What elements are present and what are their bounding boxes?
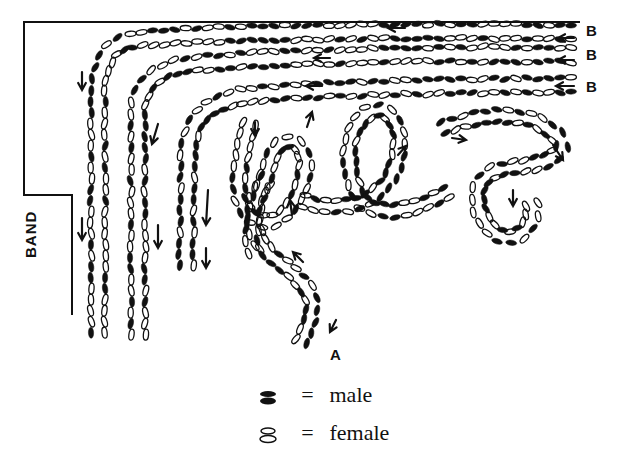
legend-female: =female (256, 420, 389, 447)
entry-label-a: A (330, 346, 341, 363)
entry-label-b2: B (586, 46, 597, 63)
female-symbol-icon (256, 423, 280, 447)
entry-label-b1: B (586, 22, 597, 39)
legend-male: =male (256, 382, 372, 409)
entry-label-b3: B (586, 78, 597, 95)
legend-female-label: female (330, 420, 390, 445)
dance-floor-diagram: B B B A BAND =male =female (0, 0, 618, 460)
male-symbol-icon (256, 385, 280, 409)
band-label: BAND (22, 211, 39, 258)
legend-male-label: male (330, 382, 373, 407)
dancer-couples (86, 19, 577, 349)
